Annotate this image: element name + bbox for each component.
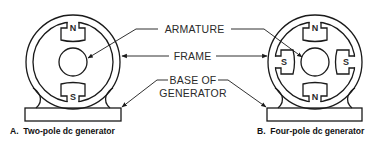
generator-two-pole: N S: [25, 15, 121, 121]
pole-label: S: [281, 57, 287, 67]
pole-label: S: [70, 92, 76, 102]
callout-frame: FRAME: [122, 50, 267, 62]
dc-generator-diagram: N S N S N S ARMATURE FRAME BASE OF: [0, 0, 392, 145]
label-frame: FRAME: [174, 50, 212, 62]
base-rectangle: [25, 108, 121, 121]
pole-label: N: [312, 92, 319, 102]
label-base-line2: GENERATOR: [159, 87, 227, 99]
label-base-line1: BASE OF: [170, 74, 217, 86]
base-rectangle: [267, 108, 362, 121]
label-armature: ARMATURE: [165, 23, 225, 35]
pole-label: S: [343, 57, 349, 67]
pole-label: N: [70, 23, 77, 33]
armature-circle: [301, 48, 329, 76]
callout-base: BASE OF GENERATOR: [122, 74, 266, 107]
pole-label: N: [312, 23, 319, 33]
frame-inner: [33, 22, 113, 102]
generator-four-pole: N S N S: [267, 15, 362, 121]
caption-two-pole: A. Two-pole dc generator: [10, 126, 116, 136]
armature-circle: [59, 48, 87, 76]
caption-four-pole: B. Four-pole dc generator: [257, 126, 365, 136]
